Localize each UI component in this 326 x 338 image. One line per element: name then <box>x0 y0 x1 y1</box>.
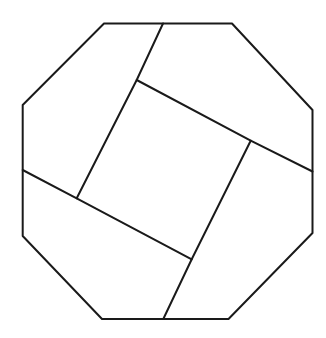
octagon-outline <box>23 24 313 320</box>
top-cut-line <box>137 24 163 81</box>
diagram-svg <box>0 0 326 338</box>
right-cut-line <box>251 141 313 172</box>
left-cut-line <box>23 170 77 198</box>
bottom-cut-line <box>163 259 191 319</box>
inner-square <box>77 80 251 259</box>
octagon-dissection-diagram: Regular-ish octagon dissected into a cen… <box>0 0 326 338</box>
cut-lines <box>23 24 313 320</box>
